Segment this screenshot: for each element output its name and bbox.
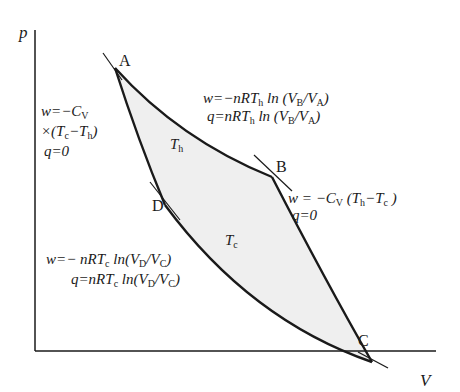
y-axis-label: p bbox=[19, 24, 28, 41]
label-T-hot: Th bbox=[170, 136, 183, 157]
point-B: B bbox=[276, 158, 287, 175]
annotation-DA-work: w=−CV bbox=[41, 103, 89, 124]
tick-C bbox=[358, 352, 388, 368]
annotation-BC-heat: q=0 bbox=[292, 207, 317, 224]
annotation-CD-work: w=− nRTc ln(VD/VC) bbox=[46, 251, 171, 272]
label-T-cold: Tc bbox=[225, 232, 238, 253]
point-D: D bbox=[152, 197, 164, 214]
annotation-CD-heat: q=nRTc ln(VD/VC) bbox=[71, 271, 180, 292]
annotation-DA-heat: q=0 bbox=[44, 143, 69, 160]
point-A: A bbox=[119, 52, 131, 69]
annotation-AB-heat: q=nRTh ln (VB/VA) bbox=[207, 108, 320, 129]
annotation-DA-work-factor: ×(Tc−Th) bbox=[41, 123, 97, 144]
point-C: C bbox=[358, 332, 369, 349]
x-axis-label: V bbox=[420, 372, 430, 389]
